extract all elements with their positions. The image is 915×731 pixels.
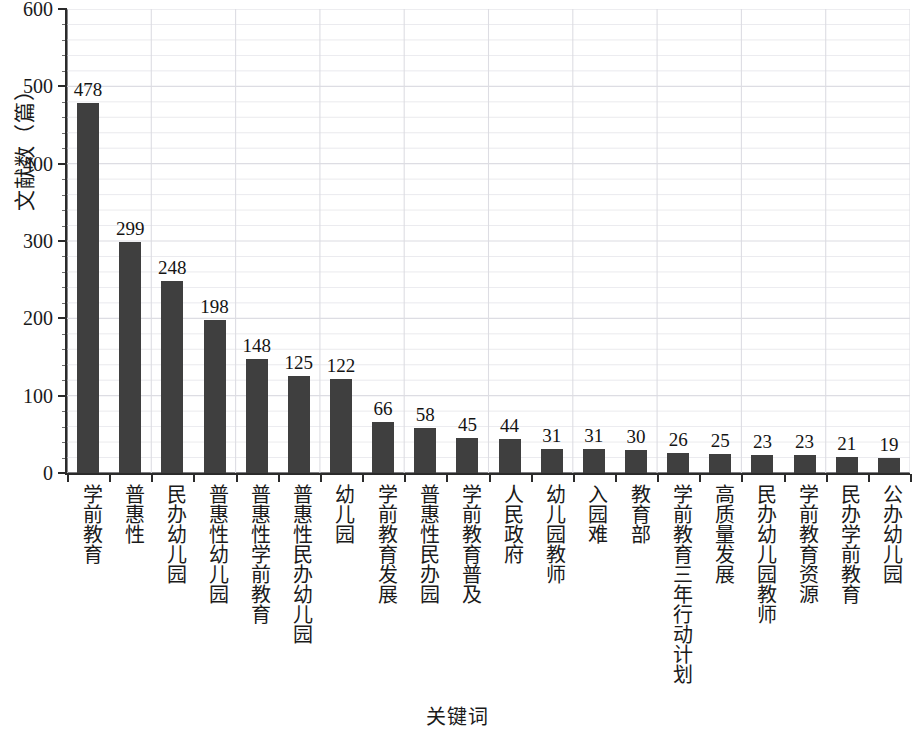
x-axis-ticks: [67, 474, 910, 483]
bar[interactable]: [667, 453, 689, 473]
x-category-label: 学前教育普及: [454, 484, 480, 604]
x-category-label: 学前教育资源: [792, 484, 818, 604]
x-category-label: 民办幼儿园: [159, 484, 185, 584]
bar[interactable]: [119, 242, 141, 473]
x-tick-mark: [615, 474, 617, 482]
bar-slot: 44: [489, 9, 531, 473]
bar-slot: 19: [868, 9, 910, 473]
bar-value-label: 30: [627, 427, 646, 446]
x-tick-mark: [868, 474, 870, 482]
x-tick-mark: [109, 474, 111, 482]
x-tick-mark: [531, 474, 533, 482]
bar-slot: 31: [573, 9, 615, 473]
x-category-label: 民办学前教育: [834, 484, 860, 604]
bar-value-label: 58: [416, 405, 435, 424]
y-tick-label: 300: [23, 231, 53, 251]
x-tick-mark: [151, 474, 153, 482]
bar-value-label: 23: [753, 432, 772, 451]
bar-value-label: 26: [669, 430, 688, 449]
x-tick-mark: [320, 474, 322, 482]
x-axis-category-labels: 学前教育普惠性民办幼儿园普惠性幼儿园普惠性学前教育普惠性民办幼儿园幼儿园学前教育…: [67, 484, 910, 699]
bar-slot: 21: [826, 9, 868, 473]
bar-slot: 23: [784, 9, 826, 473]
x-tick-mark: [741, 474, 743, 482]
bar[interactable]: [414, 428, 436, 473]
y-tick-label: 600: [23, 0, 53, 19]
bar[interactable]: [372, 422, 394, 473]
bar-slot: 30: [615, 9, 657, 473]
x-category-label: 公办幼儿园: [876, 484, 902, 584]
bar-value-label: 66: [374, 399, 393, 418]
y-tick-label: 200: [23, 308, 53, 328]
x-category-label: 普惠性民办幼儿园: [286, 484, 312, 644]
y-tick-label: 400: [23, 154, 53, 174]
x-tick-mark: [910, 474, 912, 482]
x-tick-mark: [489, 474, 491, 482]
bar[interactable]: [794, 455, 816, 473]
bar[interactable]: [836, 457, 858, 473]
bar[interactable]: [751, 455, 773, 473]
bar-slot: 66: [362, 9, 404, 473]
bar-value-label: 478: [74, 80, 103, 99]
bar[interactable]: [456, 438, 478, 473]
bar-slot: 248: [151, 9, 193, 473]
x-category-label: 普惠性民办园: [412, 484, 438, 604]
y-axis-ticks: 0100200300400500600: [0, 9, 67, 473]
bar-value-label: 198: [200, 297, 229, 316]
bar-chart: 文献数（篇） 0100200300400500600 4782992481981…: [0, 0, 915, 731]
bar-value-label: 148: [242, 336, 271, 355]
x-tick-mark: [446, 474, 448, 482]
bar-slot: 45: [446, 9, 488, 473]
bars-layer: 4782992481981481251226658454431313026252…: [67, 9, 910, 473]
bar[interactable]: [499, 439, 521, 473]
bar-slot: 58: [404, 9, 446, 473]
y-tick-label: 500: [23, 76, 53, 96]
x-axis-title: 关键词: [0, 701, 915, 730]
x-category-label: 入园难: [581, 484, 607, 544]
x-category-label: 幼儿园: [328, 484, 354, 544]
x-tick-mark: [573, 474, 575, 482]
x-tick-mark: [657, 474, 659, 482]
bar[interactable]: [583, 449, 605, 473]
bar-slot: 198: [193, 9, 235, 473]
bar[interactable]: [288, 376, 310, 473]
x-category-label: 学前教育发展: [370, 484, 396, 604]
x-tick-mark: [278, 474, 280, 482]
x-tick-mark: [784, 474, 786, 482]
bar-value-label: 23: [795, 432, 814, 451]
x-tick-mark: [404, 474, 406, 482]
x-category-label: 学前教育三年行动计划: [665, 484, 691, 684]
x-category-label: 民办幼儿园教师: [749, 484, 775, 624]
bar-value-label: 122: [327, 356, 356, 375]
bar-value-label: 21: [837, 434, 856, 453]
x-category-label: 普惠性学前教育: [244, 484, 270, 624]
bar[interactable]: [541, 449, 563, 473]
bar[interactable]: [246, 359, 268, 473]
x-tick-mark: [236, 474, 238, 482]
bar[interactable]: [204, 320, 226, 473]
x-category-label: 学前教育: [75, 484, 101, 564]
bar[interactable]: [77, 103, 99, 473]
x-category-label: 幼儿园教师: [539, 484, 565, 584]
x-category-label: 普惠性: [117, 484, 143, 544]
bar-value-label: 125: [285, 353, 314, 372]
x-tick-mark: [193, 474, 195, 482]
bar[interactable]: [161, 281, 183, 473]
bar-slot: 23: [741, 9, 783, 473]
bar-slot: 299: [109, 9, 151, 473]
bar-value-label: 31: [542, 426, 561, 445]
bar-value-label: 44: [500, 416, 519, 435]
bar[interactable]: [709, 454, 731, 473]
bar[interactable]: [625, 450, 647, 473]
bar-value-label: 25: [711, 431, 730, 450]
x-tick-mark: [362, 474, 364, 482]
bar[interactable]: [878, 458, 900, 473]
bar-value-label: 248: [158, 258, 187, 277]
bar-slot: 478: [67, 9, 109, 473]
bar-slot: 148: [236, 9, 278, 473]
bar-value-label: 31: [584, 426, 603, 445]
x-category-label: 普惠性幼儿园: [202, 484, 228, 604]
bar[interactable]: [330, 379, 352, 473]
x-category-label: 高质量发展: [707, 484, 733, 584]
x-category-label: 人民政府: [497, 484, 523, 564]
